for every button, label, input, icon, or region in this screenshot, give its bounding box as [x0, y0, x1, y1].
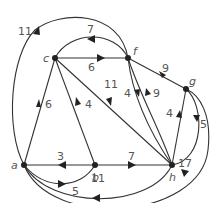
- weight-g-h: 5: [200, 118, 207, 131]
- arrow-f-c: [87, 35, 95, 43]
- weight-f-c: 7: [87, 23, 94, 36]
- node-f: [125, 55, 131, 61]
- weight-c-f: 6: [88, 61, 95, 74]
- weight-h-f: 9: [153, 87, 160, 100]
- arrow-h-a: [92, 194, 100, 202]
- weight-a-c: 6: [45, 98, 52, 111]
- weight-f-g: 9: [162, 62, 169, 75]
- weight-b-h: 7: [128, 150, 135, 163]
- arrow-a-b: [58, 180, 66, 188]
- arrow-h-f: [145, 88, 151, 96]
- weight-h-g: 4: [166, 107, 173, 120]
- weight-a-g: 17: [178, 157, 192, 170]
- node-label-b: b: [92, 171, 99, 184]
- edge-a-c: [24, 58, 55, 165]
- arrow-a-c: [36, 99, 41, 107]
- arrow-c-h: [106, 97, 112, 106]
- edge-f-g: [128, 58, 186, 89]
- arrow-a-g: [181, 169, 189, 177]
- weight-c-h: 11: [104, 78, 118, 91]
- edge-g-h: [172, 89, 199, 165]
- edge-b-c: [55, 58, 95, 165]
- weight-b-c: 4: [85, 98, 92, 111]
- node-a: [21, 162, 27, 168]
- edge-h-g: [172, 89, 186, 165]
- node-c: [52, 55, 58, 61]
- node-h: [169, 162, 175, 168]
- arrow-c-f: [97, 54, 105, 62]
- weight-f-a: 11: [18, 25, 32, 38]
- node-label-h: h: [169, 171, 176, 184]
- weight-a-b: 5: [72, 185, 79, 198]
- node-label-c: c: [43, 52, 49, 65]
- node-b: [92, 162, 98, 168]
- directed-graph: 11 7 6 11 6 4 4 9 9 4 5 3 7 5 11 17 a b …: [0, 0, 218, 203]
- node-label-f: f: [133, 45, 139, 58]
- weight-b-a: 3: [57, 150, 64, 163]
- node-label-a: a: [11, 159, 18, 172]
- weight-f-h: 4: [124, 87, 131, 100]
- edges: [12, 17, 208, 203]
- arrow-b-c: [75, 97, 81, 106]
- edge-f-a: [12, 17, 128, 165]
- edge-c-h: [55, 58, 172, 165]
- node-label-g: g: [189, 75, 196, 88]
